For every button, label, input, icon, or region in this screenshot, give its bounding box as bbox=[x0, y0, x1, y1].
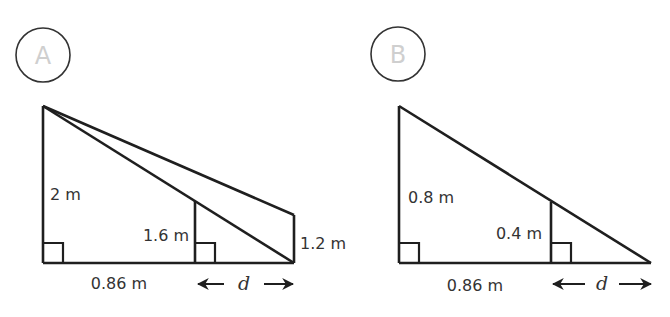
right-angle-marker bbox=[195, 243, 215, 263]
label-middle-post: 0.4 m bbox=[496, 224, 542, 243]
diagram-canvas: A 2 m 1.6 m 1.2 m 0.86 m d bbox=[0, 0, 670, 317]
distance-d-a: d bbox=[198, 272, 293, 294]
right-angle-marker bbox=[551, 243, 571, 263]
diagram-a: A 2 m 1.6 m 1.2 m 0.86 m d bbox=[16, 28, 346, 294]
distance-d-b: d bbox=[553, 272, 651, 294]
label-distance: d bbox=[596, 272, 608, 294]
label-base: 0.86 m bbox=[447, 276, 503, 295]
diagram-b: B 0.8 m 0.4 m 0.86 m d bbox=[371, 27, 651, 295]
badge-b: B bbox=[371, 27, 425, 81]
label-middle-post: 1.6 m bbox=[143, 226, 189, 245]
label-distance: d bbox=[238, 272, 250, 294]
badge-a: A bbox=[16, 28, 70, 82]
label-tall-post: 2 m bbox=[50, 185, 81, 204]
badge-letter: B bbox=[390, 41, 406, 69]
label-right-post: 1.2 m bbox=[300, 234, 346, 253]
right-angle-marker bbox=[43, 243, 63, 263]
label-base: 0.86 m bbox=[91, 274, 147, 293]
right-angle-marker bbox=[399, 243, 419, 263]
label-tall-post: 0.8 m bbox=[408, 188, 454, 207]
badge-letter: A bbox=[35, 42, 52, 70]
